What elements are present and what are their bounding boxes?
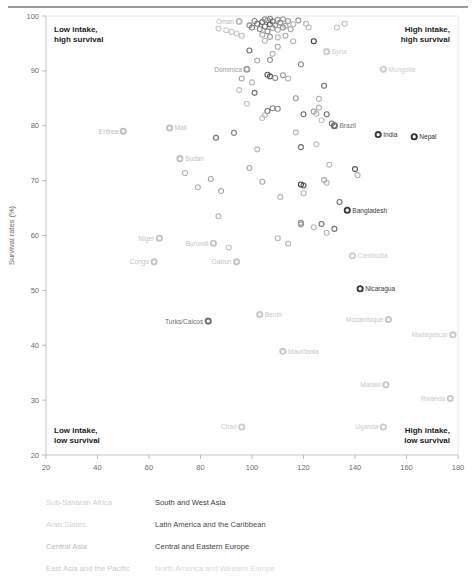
- y-tick-label: 90: [31, 66, 39, 75]
- data-point-labeled: [376, 132, 381, 137]
- data-point-labeled: [167, 125, 172, 130]
- data-point-label: Turks/Caicos: [165, 318, 204, 325]
- legend-item-right-3[interactable]: North America and Western Europe: [155, 558, 275, 580]
- legend-column-right: South and West AsiaLatin America and the…: [155, 492, 275, 580]
- data-point: [355, 173, 360, 178]
- data-point: [293, 130, 298, 135]
- y-tick-label: 70: [31, 176, 39, 185]
- data-point: [293, 96, 298, 101]
- x-tick-label: 120: [297, 463, 310, 472]
- data-point: [322, 83, 327, 88]
- scatter-chart: 2030405060708090100204060801001201401601…: [0, 0, 476, 480]
- data-point: [306, 25, 311, 30]
- legend-item-right-2[interactable]: Central and Eastern Europe: [155, 536, 275, 558]
- data-point: [275, 27, 280, 32]
- data-point-labeled: [450, 332, 455, 337]
- data-point: [301, 191, 306, 196]
- data-point: [324, 112, 329, 117]
- legend-item-left-2[interactable]: Central Asia: [46, 536, 130, 558]
- data-point: [301, 112, 306, 117]
- data-point: [229, 29, 234, 34]
- legend-item-right-0[interactable]: South and West Asia: [155, 492, 275, 514]
- data-point-label: Mauritania: [288, 348, 319, 355]
- data-point: [270, 106, 275, 111]
- x-tick-label: 20: [42, 463, 50, 472]
- data-point: [314, 142, 319, 147]
- chart-svg: 2030405060708090100204060801001201401601…: [0, 0, 476, 480]
- data-point: [275, 44, 280, 49]
- data-point-labeled: [280, 349, 285, 354]
- annotation-bottom-right: High intake,low survival: [404, 426, 450, 445]
- data-point: [224, 28, 229, 33]
- data-point-label: Niger: [139, 235, 156, 243]
- x-tick-label: 140: [349, 463, 362, 472]
- legend-item-left-3[interactable]: East Asia and the Pacific: [46, 558, 130, 580]
- legend-item-right-1[interactable]: Latin America and the Caribbean: [155, 514, 275, 536]
- x-tick-label: 100: [246, 463, 259, 472]
- data-point: [286, 76, 291, 81]
- data-point: [208, 176, 213, 181]
- data-point: [316, 96, 321, 101]
- data-point: [316, 105, 321, 110]
- legend-item-left-1[interactable]: Arab States: [46, 514, 130, 536]
- data-point: [216, 214, 221, 219]
- data-point-labeled: [177, 156, 182, 161]
- y-tick-label: 20: [31, 451, 39, 460]
- data-point: [298, 145, 303, 150]
- x-tick-label: 60: [145, 463, 153, 472]
- data-point: [283, 33, 288, 38]
- data-point: [270, 51, 275, 56]
- data-point: [252, 90, 257, 95]
- data-point-label: Bangladesh: [352, 207, 387, 215]
- data-point-labeled: [381, 424, 386, 429]
- data-point-labeled: [381, 67, 386, 72]
- data-point: [265, 29, 270, 34]
- data-point-label: Cambodia: [357, 252, 387, 259]
- data-point-label: Madagascar: [412, 331, 449, 339]
- data-point-labeled: [121, 129, 126, 134]
- annotation-bottom-left: Low intake,low survival: [54, 426, 100, 445]
- data-point: [268, 34, 273, 39]
- data-point-label: Syria: [332, 48, 347, 56]
- data-point: [231, 130, 236, 135]
- data-point: [311, 225, 316, 230]
- data-point: [239, 33, 244, 38]
- data-point-label: Rwanda: [421, 395, 446, 402]
- data-point-labeled: [206, 319, 211, 324]
- data-point: [275, 106, 280, 111]
- data-point-labeled: [412, 134, 417, 139]
- data-point-label: India: [383, 131, 398, 138]
- data-point: [291, 22, 296, 27]
- data-point: [250, 80, 255, 85]
- data-point-label: Sudan: [185, 155, 204, 162]
- data-point-label: Malawi: [360, 381, 381, 388]
- data-point-label: Nicaragua: [365, 285, 395, 293]
- data-point-label: Nepal: [419, 133, 437, 141]
- data-point: [288, 27, 293, 32]
- data-point-labeled: [211, 241, 216, 246]
- data-point: [257, 27, 262, 32]
- data-point-labeled: [350, 253, 355, 258]
- data-point: [286, 241, 291, 246]
- data-point: [255, 58, 260, 63]
- data-point: [237, 88, 242, 93]
- data-point-labeled: [383, 382, 388, 387]
- data-point: [244, 101, 249, 106]
- data-point: [275, 35, 280, 40]
- legend-item-left-0[interactable]: Sub-Saharan Africa: [46, 492, 130, 514]
- data-point: [247, 48, 252, 53]
- data-point: [183, 170, 188, 175]
- y-axis-title: Survival rates (%): [7, 205, 16, 265]
- data-point-labeled: [332, 123, 337, 128]
- data-point: [353, 167, 358, 172]
- data-point: [298, 62, 303, 67]
- data-point: [213, 135, 218, 140]
- data-point: [262, 24, 267, 29]
- data-point-labeled: [237, 19, 242, 24]
- data-point-labeled: [324, 49, 329, 54]
- data-point-label: Brazil: [339, 122, 356, 129]
- data-point: [342, 21, 347, 26]
- data-point-label: Uganda: [355, 423, 378, 431]
- data-point: [226, 245, 231, 250]
- data-point: [337, 200, 342, 205]
